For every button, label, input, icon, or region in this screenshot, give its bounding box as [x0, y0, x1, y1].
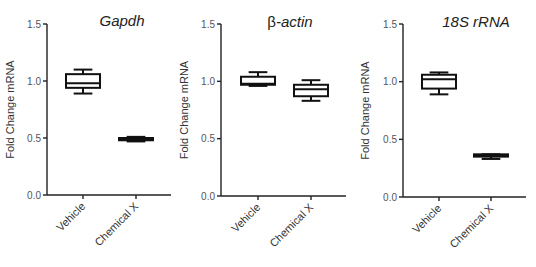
box-chemical-x — [294, 80, 328, 101]
y-tick-label: 1.0 — [201, 76, 215, 87]
y-axis-label: Fold Change mRNA — [178, 60, 190, 159]
panel-2: β-actinFold Change mRNA0.00.51.01.5Vehic… — [178, 13, 346, 249]
y-tick-label: 0.0 — [201, 191, 215, 202]
y-tick-label: 0.0 — [27, 190, 41, 201]
y-tick-label: 0.0 — [383, 192, 397, 203]
panel-1: GapdhFold Change mRNA0.00.51.01.5Vehicle… — [4, 12, 171, 248]
panel-title: 18S rRNA — [442, 13, 510, 30]
y-tick-label: 1.0 — [27, 76, 41, 87]
y-axis-label: Fold Change mRNA — [4, 60, 16, 159]
box-chemical-x — [474, 154, 508, 159]
x-category-label: Chemical X — [447, 201, 496, 250]
panel-title: β-actin — [267, 13, 312, 30]
box-plot-panels: GapdhFold Change mRNA0.00.51.01.5Vehicle… — [0, 0, 536, 267]
box-vehicle — [422, 72, 456, 94]
y-tick-label: 1.5 — [201, 19, 215, 30]
box-vehicle — [241, 72, 275, 86]
x-category-label: Vehicle — [229, 201, 263, 235]
panel-3: 18S rRNAFold Change mRNA0.00.51.01.5Vehi… — [359, 13, 526, 250]
box-chemical-x — [119, 137, 153, 142]
y-tick-label: 0.5 — [383, 134, 397, 145]
y-tick-label: 1.5 — [27, 19, 41, 30]
box-vehicle — [66, 70, 100, 94]
y-tick-label: 1.0 — [383, 76, 397, 87]
panel-title: Gapdh — [99, 12, 144, 29]
y-tick-label: 0.5 — [27, 133, 41, 144]
x-category-label: Vehicle — [54, 200, 88, 234]
x-category-label: Chemical X — [92, 199, 141, 248]
x-category-label: Chemical X — [267, 200, 316, 249]
y-tick-label: 0.5 — [201, 133, 215, 144]
figure: GapdhFold Change mRNA0.00.51.01.5Vehicle… — [0, 0, 536, 267]
y-axis-label: Fold Change mRNA — [359, 61, 371, 160]
y-tick-label: 1.5 — [383, 19, 397, 30]
x-category-label: Vehicle — [410, 202, 444, 236]
